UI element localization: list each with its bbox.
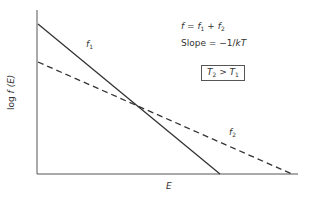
equation-label: f = f1 + f2 — [181, 22, 225, 32]
x-axis-label: E — [166, 182, 172, 191]
slope-label: Slope = −1/kT — [181, 39, 246, 48]
plot-canvas — [0, 0, 311, 197]
y-axis-label: log f (E) — [6, 75, 16, 110]
f2-label: f2 — [229, 128, 236, 138]
f1-label: f1 — [86, 40, 93, 50]
temperature-condition-box: T2 > T1 — [201, 65, 245, 81]
curve-f2-dashed — [38, 62, 292, 174]
